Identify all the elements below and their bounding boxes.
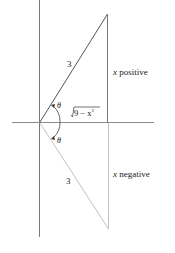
adjacent-side-label: 9 − x2 — [74, 108, 94, 118]
lower-hypotenuse-label: 3 — [66, 177, 71, 186]
negative-text: negative — [119, 169, 150, 179]
diagram-canvas — [0, 0, 175, 253]
x-negative-label: x negative — [113, 170, 150, 179]
x-positive-label: x positive — [113, 68, 148, 77]
lower-hypotenuse — [40, 123, 109, 229]
adjacent-exponent: 2 — [92, 108, 95, 113]
lower-angle-label: θ — [57, 137, 61, 145]
positive-text: positive — [119, 67, 148, 77]
adjacent-radicand: 9 − x — [74, 108, 92, 118]
upper-angle-label: θ — [57, 102, 61, 110]
x-var: x — [113, 67, 117, 77]
upper-hypotenuse-label: 3 — [67, 60, 72, 69]
upper-hypotenuse — [40, 14, 108, 122]
x-var: x — [113, 169, 117, 179]
